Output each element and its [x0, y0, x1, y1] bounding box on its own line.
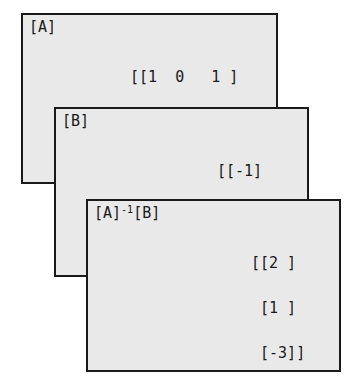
matrix-b-label: [B]: [62, 112, 89, 130]
result-expression-label: [A]-1[B]: [94, 204, 160, 222]
matrix-row: [1 ]: [251, 301, 305, 316]
matrix-row: [[-1]: [217, 164, 271, 179]
matrix-row: [-3]]: [251, 346, 305, 361]
inverse-exponent: -1: [121, 204, 133, 215]
screen-result: [A]-1[B] [[2 ] [1 ] [-3]]: [86, 199, 341, 372]
label-a: [A]: [94, 204, 121, 222]
matrix-a-label: [A]: [29, 18, 56, 36]
label-b: [B]: [133, 204, 160, 222]
result-values: [[2 ] [1 ] [-3]]: [251, 226, 305, 388]
matrix-row: [[1 0 1 ]: [130, 70, 247, 85]
matrix-row: [[2 ]: [251, 256, 305, 271]
